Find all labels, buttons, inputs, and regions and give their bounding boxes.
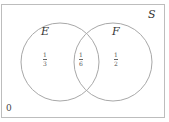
denominator: 3: [43, 61, 47, 67]
region-f-only-value: 1 2: [114, 52, 118, 67]
region-intersection-value: 1 6: [79, 52, 83, 67]
numerator: 1: [114, 52, 118, 58]
denominator: 2: [114, 61, 118, 67]
set-e-label: E: [41, 26, 49, 37]
numerator: 1: [79, 52, 83, 58]
venn-circles: [0, 0, 169, 122]
numerator: 1: [43, 52, 47, 58]
denominator: 6: [79, 61, 83, 67]
outside-region-value: 0: [6, 104, 12, 113]
circle-e: [21, 23, 99, 101]
region-e-only-value: 1 3: [43, 52, 47, 67]
universe-label: S: [148, 9, 156, 20]
set-f-label: F: [112, 26, 120, 37]
